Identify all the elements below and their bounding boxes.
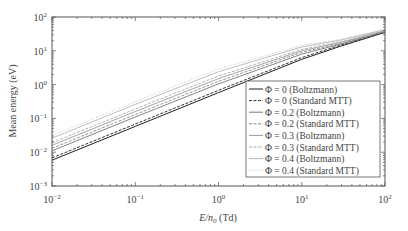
x-tick-label: 100 [212,193,226,205]
mean-energy-chart: 10−210−1100101102 10−310−210−1100101102 … [0,0,408,231]
legend-label: Φ = 0.2 (Standard MTT) [265,119,359,130]
x-axis-tick-labels: 10−210−1100101102 [43,193,392,205]
legend-label: Φ = 0.4 (Standard MTT) [265,166,359,177]
legend-label: Φ = 0.2 (Boltzmann) [265,108,344,119]
legend-label: Φ = 0 (Standard MTT) [265,96,352,107]
y-tick-label: 100 [34,79,48,91]
x-tick-label: 10−1 [127,193,145,205]
legend-label: Φ = 0.3 (Boltzmann) [265,131,344,142]
x-tick-label: 102 [378,193,392,205]
y-tick-label: 102 [34,11,48,23]
y-tick-label: 10−1 [30,112,48,124]
x-axis-title: E/n0 (Td) [198,212,237,225]
x-tick-label: 101 [295,193,309,205]
legend-label: Φ = 0.4 (Boltzmann) [265,154,344,165]
y-tick-label: 10−2 [30,146,48,158]
legend-items: Φ = 0 (Boltzmann)Φ = 0 (Standard MTT)Φ =… [249,85,359,177]
y-tick-label: 101 [34,45,48,57]
y-axis-tick-labels: 10−310−210−1100101102 [30,11,48,192]
y-tick-label: 10−3 [30,180,48,192]
legend: Φ = 0 (Boltzmann)Φ = 0 (Standard MTT)Φ =… [246,81,380,177]
x-tick-label: 10−2 [43,193,61,205]
y-axis-title: Mean energy (eV) [7,64,19,137]
legend-label: Φ = 0.3 (Standard MTT) [265,143,359,154]
legend-label: Φ = 0 (Boltzmann) [265,85,337,96]
